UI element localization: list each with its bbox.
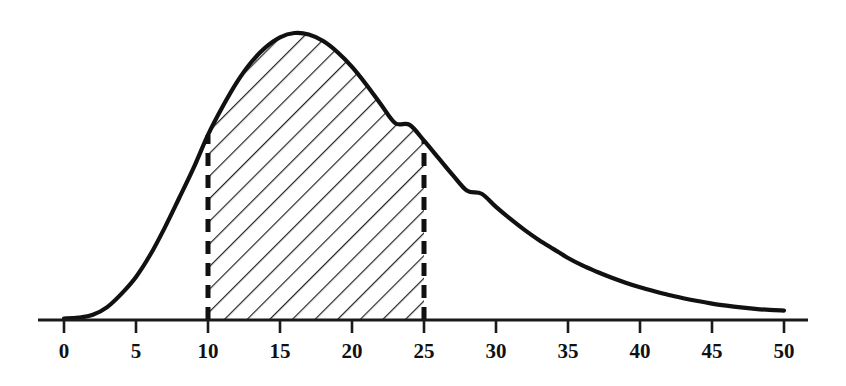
x-axis-tick-label: 40 [630,339,651,363]
x-axis-tick-label: 35 [558,339,579,363]
x-axis-tick-label: 10 [198,339,219,363]
x-axis-tick-labels: 05101520253035404550 [59,339,795,363]
x-axis-tick-label: 25 [414,339,435,363]
x-axis-tick-label: 5 [131,339,142,363]
x-axis-tick-label: 20 [342,339,363,363]
x-axis-tick-label: 45 [702,339,723,363]
x-axis-ticks [64,320,784,333]
x-axis-tick-label: 0 [59,339,70,363]
distribution-figure: 05101520253035404550 [0,0,846,386]
density-curve-plot: 05101520253035404550 [0,0,846,386]
x-axis-tick-label: 15 [270,339,291,363]
x-axis-tick-label: 30 [486,339,507,363]
x-axis-tick-label: 50 [774,339,795,363]
